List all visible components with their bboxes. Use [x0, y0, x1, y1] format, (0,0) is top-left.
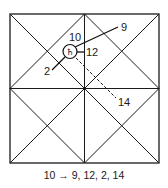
label-aspect-9: 9 — [121, 21, 127, 33]
label-aspect-12: 12 — [86, 46, 98, 58]
aspect-line-2 — [52, 57, 65, 70]
aspect-line-9 — [75, 27, 118, 47]
label-aspect-14: 14 — [118, 96, 130, 108]
horoscope-diagram: ♄ 10 9 12 2 14 — [0, 0, 168, 188]
diagram-caption: 10 → 9, 12, 2, 14 — [0, 169, 168, 181]
label-source-10: 10 — [69, 31, 81, 43]
aspect-line-14 — [76, 58, 116, 98]
label-aspect-2: 2 — [44, 65, 50, 77]
saturn-icon: ♄ — [66, 47, 74, 57]
